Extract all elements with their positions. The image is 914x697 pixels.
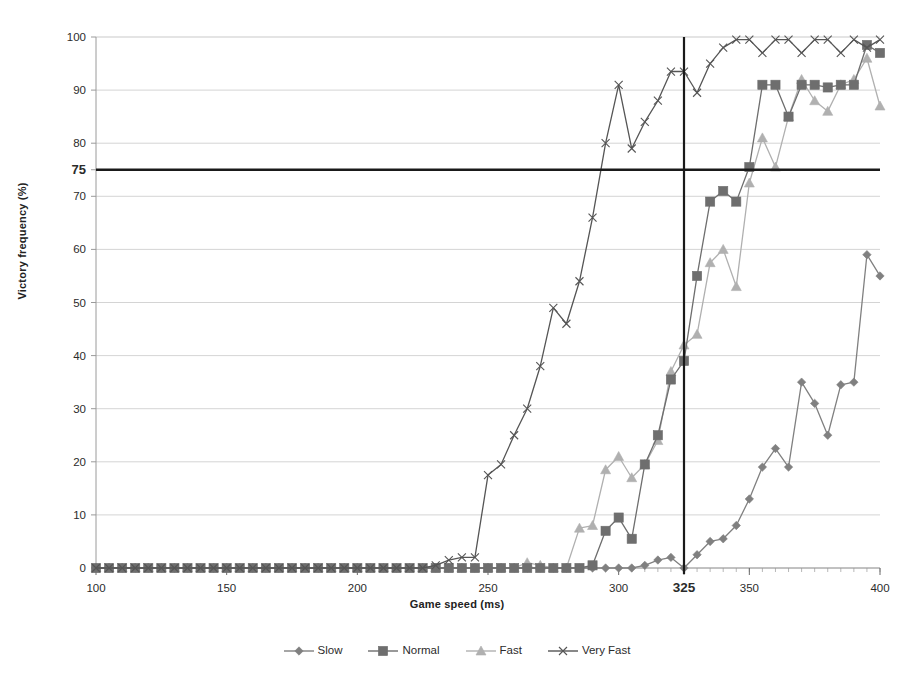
x-tick-label: 250 [478,582,497,594]
marker-square [614,513,623,522]
marker-square [601,526,610,535]
legend-item-fast[interactable]: Fast [466,645,522,657]
series-line [96,255,880,568]
y-tick-label: 60 [73,243,86,255]
x-tick-label: 300 [609,582,628,594]
marker-x [706,60,714,68]
y-tick-label: 90 [73,84,86,96]
legend-swatch-x-icon [548,645,578,657]
y-tick-label: 100 [67,31,86,43]
y-tick-label: 0 [80,562,86,574]
marker-triangle [875,101,885,110]
marker-x [719,44,727,52]
marker-triangle [718,244,728,253]
marker-square [627,534,636,543]
x-axis-label: Game speed (ms) [0,598,914,610]
legend-swatch-diamond-icon [284,645,314,657]
marker-triangle [614,451,624,460]
y-tick-label: 50 [73,297,86,309]
x-tick-label: 100 [86,582,105,594]
series-line [96,40,880,568]
marker-diamond [654,556,662,564]
marker-square [523,563,532,572]
marker-square [483,563,492,572]
marker-diamond [601,564,609,572]
chart-figure: Victory frequency (%) Game speed (ms) 01… [0,0,914,697]
y-tick-label: 75 [72,162,86,177]
y-tick-label: 30 [73,403,86,415]
marker-x [758,49,766,57]
series-line [96,45,880,568]
marker-square [823,83,832,92]
legend-item-slow[interactable]: Slow [284,645,343,657]
marker-square [732,197,741,206]
marker-square [444,563,453,572]
marker-diamond [628,564,636,572]
marker-diamond [614,564,622,572]
marker-square [706,197,715,206]
marker-square [562,563,571,572]
marker-square [640,460,649,469]
marker-triangle [692,329,702,338]
marker-diamond [876,272,884,280]
marker-square [510,563,519,572]
marker-square [470,563,479,572]
marker-diamond [797,378,805,386]
legend-label: Very Fast [582,645,631,657]
marker-x [562,320,570,328]
marker-square [588,561,597,570]
series-slow [92,251,884,573]
legend-label: Normal [402,645,439,657]
plot-area: 0102030405060707580901001001502002503003… [0,0,914,640]
y-tick-label: 40 [73,350,86,362]
x-tick-label: 150 [217,582,236,594]
marker-x [654,97,662,105]
x-tick-label: 400 [870,582,889,594]
series-normal [91,40,884,572]
marker-diamond [784,463,792,471]
marker-square [379,646,388,655]
x-tick-label: 350 [740,582,759,594]
marker-x [798,49,806,57]
marker-diamond [771,444,779,452]
legend-item-normal[interactable]: Normal [368,645,439,657]
legend-label: Fast [500,645,522,657]
marker-square [784,112,793,121]
x-tick-label: 200 [348,582,367,594]
marker-triangle [810,96,820,105]
marker-triangle [588,521,598,530]
marker-diamond [745,495,753,503]
marker-square [758,80,767,89]
series-fast [91,53,885,572]
marker-square [719,186,728,195]
marker-diamond [837,381,845,389]
marker-square [849,80,858,89]
marker-diamond [850,378,858,386]
marker-square [549,563,558,572]
marker-square [810,80,819,89]
legend-label: Slow [318,645,343,657]
marker-diamond [863,251,871,259]
legend-item-very-fast[interactable]: Very Fast [548,645,631,657]
y-tick-label: 20 [73,456,86,468]
marker-x [510,431,518,439]
marker-square [797,80,806,89]
marker-triangle [744,178,754,187]
y-tick-label: 10 [73,509,86,521]
marker-square [836,80,845,89]
y-tick-label: 80 [73,137,86,149]
y-axis-label: Victory frequency (%) [16,161,28,321]
marker-square [875,48,884,57]
chart-legend: SlowNormalFastVery Fast [0,645,914,657]
marker-square [536,563,545,572]
y-tick-label: 70 [73,190,86,202]
marker-x [837,49,845,57]
marker-square [575,563,584,572]
legend-swatch-triangle-icon [466,645,496,657]
legend-swatch-square-icon [368,645,398,657]
x-tick-label: 325 [673,580,696,595]
marker-square [457,563,466,572]
marker-x [641,118,649,126]
marker-square [653,431,662,440]
marker-square [771,80,780,89]
